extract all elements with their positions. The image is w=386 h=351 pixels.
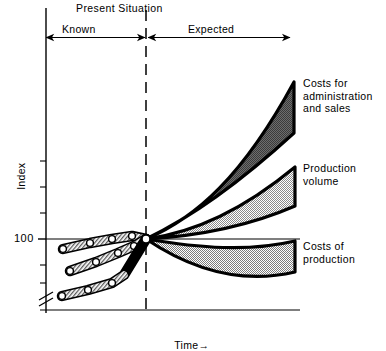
y-axis-ticks (40, 161, 46, 283)
present-situation-title: Present Situation (76, 2, 163, 15)
series-label-costs-of-production: Costs of production (303, 240, 355, 265)
y-axis-tick-label-100: 100 (14, 232, 34, 245)
x-axis-arrow-icon: → (198, 339, 209, 351)
expected-period-label: Expected (188, 23, 234, 36)
series-label-production-volume: Production volume (303, 162, 356, 187)
present-situation-node (142, 235, 150, 243)
y-axis-title: Index (15, 146, 28, 206)
x-axis-title-text: Time (174, 339, 198, 351)
band-costs-production (146, 239, 295, 276)
known-period-label: Known (62, 23, 96, 36)
x-axis-title: Time→ (168, 326, 209, 351)
series-label-costs-administration: Costs for administration and sales (303, 77, 373, 115)
